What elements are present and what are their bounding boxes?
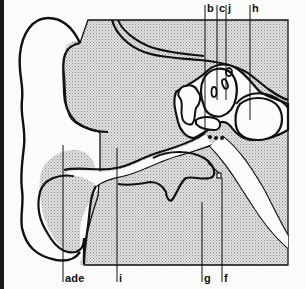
air-cell-1 <box>208 135 212 139</box>
shaded-head-block <box>63 20 288 265</box>
label-h: h <box>252 3 259 14</box>
label-c: c <box>219 3 225 14</box>
label-b: b <box>207 3 214 14</box>
f-pointer-tip <box>217 173 221 178</box>
label-i: i <box>119 273 122 284</box>
label-j: j <box>228 3 231 14</box>
label-g: g <box>204 273 211 284</box>
ear-diagram <box>0 0 306 289</box>
air-cell-2 <box>214 136 218 140</box>
air-cell-3 <box>220 136 224 140</box>
label-ade: ade <box>65 273 85 284</box>
cochlea-outline <box>236 98 283 140</box>
label-f: f <box>224 273 228 284</box>
